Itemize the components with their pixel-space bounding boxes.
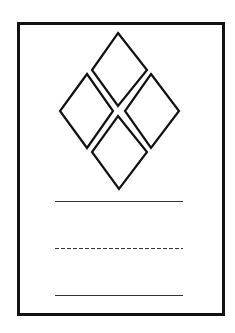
diagram-artwork bbox=[0, 0, 235, 333]
diamond-top bbox=[92, 33, 147, 106]
diamond-right bbox=[125, 74, 179, 148]
diamond-bottom bbox=[92, 116, 147, 189]
diamond-left bbox=[60, 74, 113, 148]
writing-lines bbox=[55, 202, 183, 296]
diagram-canvas bbox=[0, 0, 235, 333]
diamond-emblem-icon bbox=[60, 33, 179, 189]
